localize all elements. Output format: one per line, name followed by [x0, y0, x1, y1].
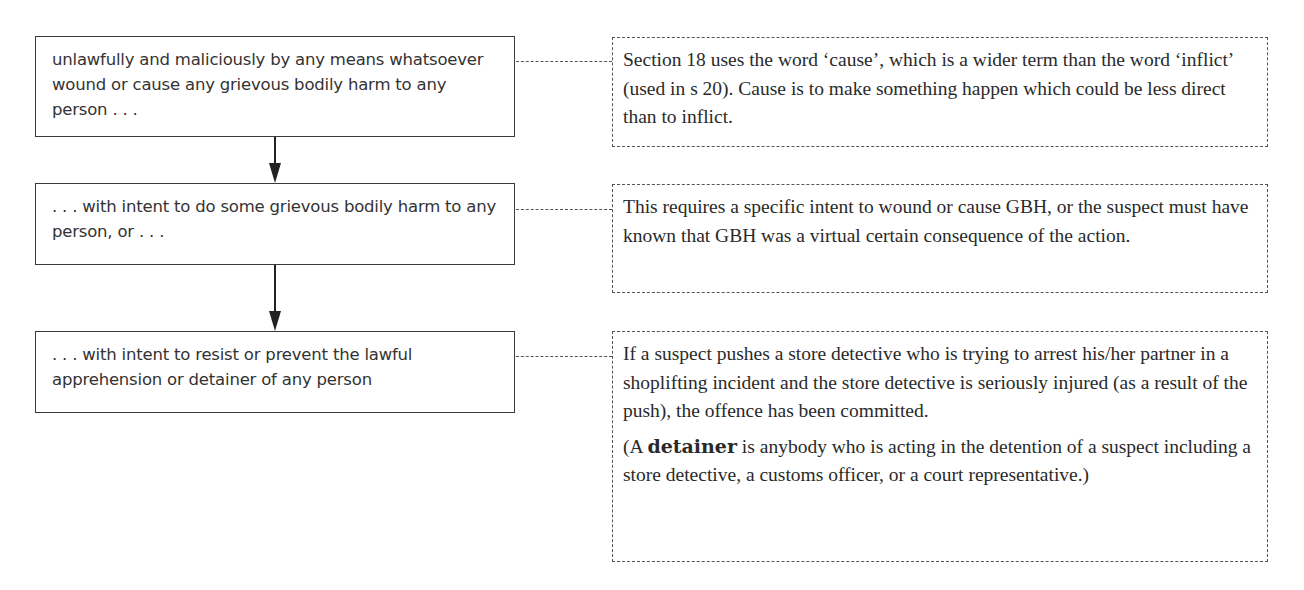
- note-1: Section 18 uses the word ‘cause’, which …: [612, 37, 1268, 147]
- arrow-down-icon: [269, 311, 281, 331]
- flow-step-3: . . . with intent to resist or prevent t…: [35, 331, 515, 413]
- note-3-text: If a suspect pushes a store detective wh…: [623, 340, 1257, 426]
- arrow-down-icon: [269, 163, 281, 183]
- flow-step-3-text: . . . with intent to resist or prevent t…: [52, 345, 412, 389]
- connector-2: [516, 209, 612, 210]
- flow-step-1: unlawfully and maliciously by any means …: [35, 36, 515, 137]
- connector-3: [516, 356, 612, 357]
- flow-step-2: . . . with intent to do some grievous bo…: [35, 183, 515, 265]
- note-3-definition: (A detainer is anybody who is acting in …: [623, 432, 1257, 490]
- definition-open: (A: [623, 436, 647, 457]
- definition-term: detainer: [647, 435, 737, 457]
- note-1-text: Section 18 uses the word ‘cause’, which …: [623, 46, 1257, 132]
- flow-step-1-text: unlawfully and maliciously by any means …: [52, 50, 483, 119]
- arrow-1-line: [274, 137, 276, 165]
- connector-1: [516, 61, 612, 62]
- flow-step-2-text: . . . with intent to do some grievous bo…: [52, 197, 496, 241]
- note-2-text: This requires a specific intent to wound…: [623, 193, 1257, 250]
- note-2: This requires a specific intent to wound…: [612, 184, 1268, 293]
- arrow-2-line: [274, 265, 276, 313]
- note-3: If a suspect pushes a store detective wh…: [612, 331, 1268, 562]
